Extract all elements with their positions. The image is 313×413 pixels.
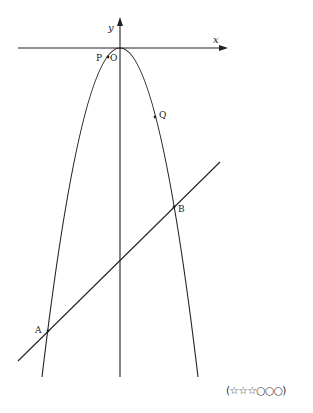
point-B (173, 206, 176, 209)
coordinate-diagram: x y O P Q A B (0, 0, 313, 413)
point-B-label: B (178, 204, 185, 214)
point-A (47, 330, 50, 333)
y-axis-label: y (107, 22, 114, 33)
x-axis-arrow-icon (219, 45, 228, 51)
point-P (107, 56, 110, 59)
origin-label: O (110, 53, 117, 63)
point-Q (154, 116, 157, 119)
y-axis-arrow-icon (117, 17, 123, 26)
point-P-label: P (96, 53, 102, 63)
difficulty-rating: (☆☆☆○○○) (226, 384, 286, 396)
x-axis-label: x (213, 34, 219, 45)
point-A-label: A (34, 325, 42, 335)
point-Q-label: Q (159, 110, 166, 120)
